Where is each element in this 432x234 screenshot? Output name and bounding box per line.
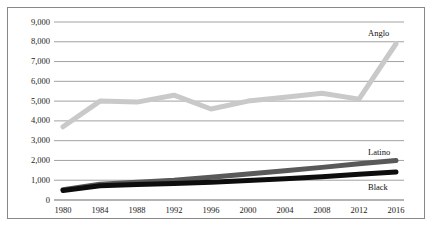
chart-figure: 01,0002,0003,0004,0005,0006,0007,0008,00… [0,0,432,234]
series-line-anglo [63,44,396,127]
x-tick-label-1984: 1984 [80,206,120,215]
x-tick-label-2016: 2016 [376,206,416,215]
y-tick-label-1000: 1,000 [10,176,50,185]
x-tick-label-1996: 1996 [191,206,231,215]
y-tick-label-5000: 5,000 [10,97,50,106]
x-tick-label-1980: 1980 [43,206,83,215]
data-series-group [63,44,396,191]
x-tick-label-1988: 1988 [117,206,157,215]
x-tick-label-2000: 2000 [228,206,268,215]
x-tick-label-2012: 2012 [339,206,379,215]
series-label-black: Black [368,183,388,192]
y-tick-label-0: 0 [10,196,50,205]
y-tick-label-4000: 4,000 [10,116,50,125]
y-tick-label-6000: 6,000 [10,77,50,86]
x-tick-label-2004: 2004 [265,206,305,215]
y-tick-label-7000: 7,000 [10,57,50,66]
series-label-anglo: Anglo [368,29,389,38]
y-tick-label-2000: 2,000 [10,156,50,165]
y-tick-label-9000: 9,000 [10,18,50,27]
y-tick-label-8000: 8,000 [10,37,50,46]
x-tick-label-1992: 1992 [154,206,194,215]
x-tick-label-2008: 2008 [302,206,342,215]
series-label-latino: Latino [368,148,390,157]
y-tick-label-3000: 3,000 [10,136,50,145]
